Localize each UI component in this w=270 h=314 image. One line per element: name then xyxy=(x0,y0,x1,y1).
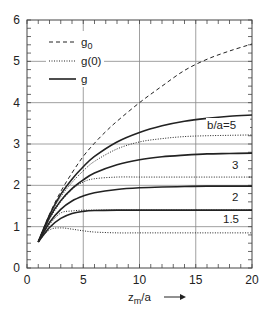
svg-text:20: 20 xyxy=(245,273,259,287)
svg-text:4: 4 xyxy=(13,96,20,110)
svg-text:10: 10 xyxy=(133,273,147,287)
curve-g-0-b-a-2 xyxy=(38,210,252,242)
svg-text:0: 0 xyxy=(13,261,20,275)
svg-text:5: 5 xyxy=(13,54,20,68)
curve-g-b-a-5 xyxy=(38,115,252,242)
curve-g-b-a-1-5 xyxy=(38,210,252,242)
svg-text:2: 2 xyxy=(13,178,20,192)
svg-text:3: 3 xyxy=(13,137,20,151)
annotation-ba15: 1.5 xyxy=(223,213,239,225)
curve-g-0-b-a-1-5 xyxy=(38,228,252,242)
legend: g0 g(0) g xyxy=(46,31,104,87)
x-axis-label: zm/a xyxy=(128,291,186,306)
annotation-ba3: 3 xyxy=(232,159,238,171)
legend-label-g-zero: g(0) xyxy=(81,55,102,67)
curve-g-0-b-a-5 xyxy=(38,135,252,242)
svg-text:5: 5 xyxy=(80,273,87,287)
annotation-ba2: 2 xyxy=(232,191,238,203)
svg-text:1: 1 xyxy=(13,220,20,234)
svg-text:zm/a: zm/a xyxy=(128,291,151,306)
arrow-head-icon xyxy=(180,294,186,300)
legend-label-g: g xyxy=(81,73,87,85)
svg-text:0: 0 xyxy=(24,273,31,287)
svg-text:15: 15 xyxy=(189,273,203,287)
annotation-ba5: b/a=5 xyxy=(207,119,236,131)
svg-text:6: 6 xyxy=(13,13,20,27)
chart: 051015200123456 g0 g(0) g b/a=5 3 2 1.5 … xyxy=(0,0,270,314)
